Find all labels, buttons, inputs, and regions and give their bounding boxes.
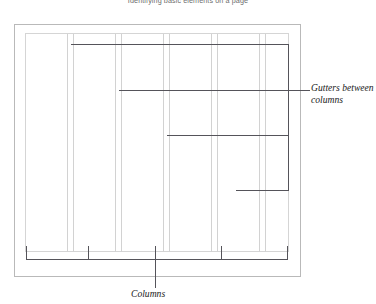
grid-diagram-svg — [0, 0, 376, 304]
column-rules-group — [68, 34, 266, 252]
columns-label: Columns — [131, 288, 201, 300]
figure-root: Identifying basic elements on a page — [0, 0, 376, 304]
page-border-rect — [15, 25, 301, 277]
grid-frame-rect — [26, 34, 289, 252]
gutter-leader-group — [71, 45, 310, 191]
gutters-between-columns-label: Gutters between columns — [311, 82, 376, 105]
